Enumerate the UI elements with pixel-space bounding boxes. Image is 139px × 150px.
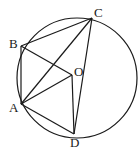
label-D: D bbox=[70, 135, 79, 150]
geometry-diagram: B C A D O bbox=[0, 0, 139, 150]
segment-AC bbox=[21, 18, 92, 104]
label-A: A bbox=[9, 100, 19, 115]
label-O: O bbox=[74, 64, 83, 79]
segment-AO bbox=[21, 75, 72, 104]
segment-AD bbox=[21, 104, 74, 134]
segment-BO bbox=[21, 46, 72, 75]
segment-OD bbox=[72, 75, 74, 134]
label-C: C bbox=[94, 5, 103, 20]
label-B: B bbox=[9, 36, 18, 51]
